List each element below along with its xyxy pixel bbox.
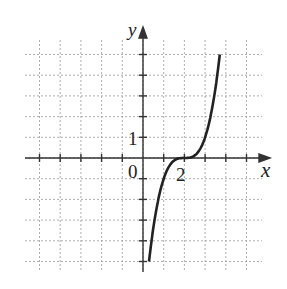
origin-label: 0 <box>128 162 138 181</box>
y-axis-label: y <box>128 20 136 39</box>
x-axis-label: x <box>261 160 270 181</box>
x-tick-label: 2 <box>176 165 186 184</box>
function-graph <box>0 0 287 289</box>
y-tick-label: 1 <box>128 129 138 148</box>
axes <box>25 27 270 272</box>
